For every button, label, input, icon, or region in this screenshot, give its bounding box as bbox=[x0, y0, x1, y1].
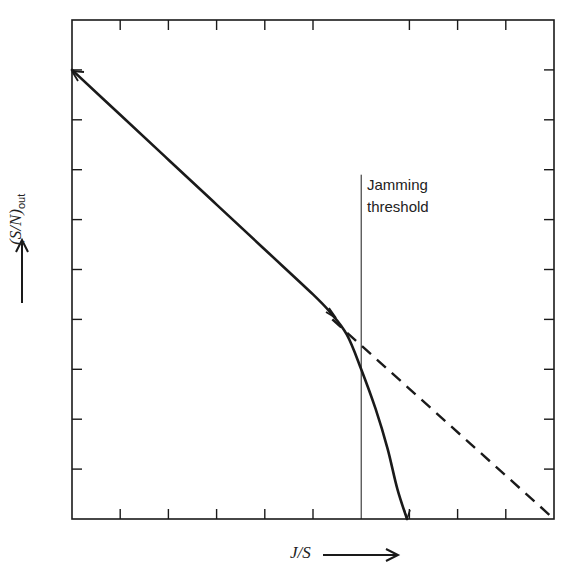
plot-frame bbox=[72, 20, 554, 519]
y-axis-arrow-icon bbox=[16, 240, 28, 303]
threshold-label-line2: threshold bbox=[367, 196, 429, 218]
y-axis-label: (S/N)out bbox=[6, 155, 26, 245]
threshold-label: Jamming threshold bbox=[367, 174, 429, 218]
axis-ticks bbox=[72, 20, 554, 519]
threshold-label-line1: Jamming bbox=[367, 174, 429, 196]
y-axis-label-main: (S/N) bbox=[6, 209, 25, 245]
chart-canvas bbox=[0, 0, 566, 577]
sn-out-curve bbox=[72, 70, 407, 519]
linear-extrapolation-line bbox=[332, 319, 554, 519]
y-axis-label-sub: out bbox=[15, 194, 27, 209]
x-axis-arrow-icon bbox=[323, 549, 398, 561]
x-axis-label: J/S bbox=[290, 543, 311, 563]
